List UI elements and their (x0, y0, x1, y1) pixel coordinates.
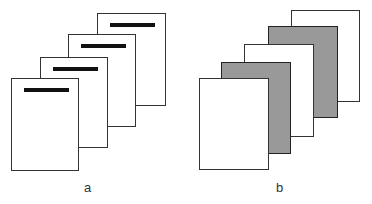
header-bar (110, 23, 155, 27)
panel-label: b (276, 180, 283, 195)
header-bar (53, 67, 98, 71)
page (11, 78, 79, 171)
header-bar (24, 88, 69, 92)
header-bar (81, 44, 126, 48)
page (199, 78, 269, 170)
panel-label: a (84, 180, 91, 195)
